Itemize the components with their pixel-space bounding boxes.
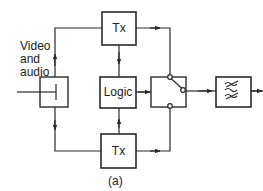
switch-lever <box>172 79 182 88</box>
tx-bottom-label: Tx <box>101 144 136 158</box>
switch-contact-top <box>168 75 173 80</box>
logic-label: Logic <box>100 85 136 99</box>
switch-box <box>151 77 186 107</box>
path-splitter-to-tx-bottom <box>55 107 101 151</box>
figure-caption: (a) <box>108 174 123 188</box>
input-label: Video and audio <box>20 40 50 79</box>
tx-top-label: Tx <box>102 21 136 35</box>
input-label-line-3: audio <box>20 66 50 79</box>
path-splitter-to-tx-top <box>55 28 102 77</box>
bandpass-filter-icon <box>225 81 238 99</box>
path-tx-bottom-to-switch <box>136 106 170 151</box>
switch-contact-bottom <box>168 104 173 109</box>
path-tx-top-to-switch <box>136 28 170 77</box>
switch-contact-common <box>181 88 186 93</box>
